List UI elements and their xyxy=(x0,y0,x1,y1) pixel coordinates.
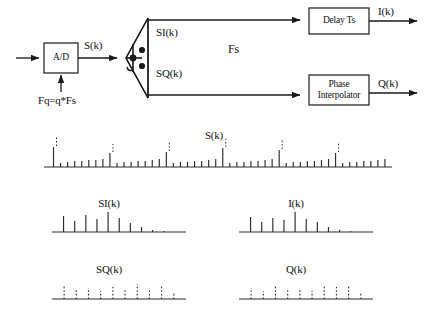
plot-qk-title: Q(k) xyxy=(286,264,306,275)
plot-sqk-title: SQ(k) xyxy=(96,264,122,275)
waveform-layer xyxy=(0,0,428,311)
plot-ik xyxy=(239,212,373,232)
diagram-canvas: A/D Fq=q*Fs S(k) SI(k) SQ(k) Fs Delay Ts… xyxy=(0,0,428,311)
plot-qk xyxy=(239,285,373,299)
plot-ik-title: I(k) xyxy=(288,198,304,209)
plot-sqk xyxy=(52,284,186,299)
plot-sik-title: SI(k) xyxy=(98,198,120,209)
plot-sk xyxy=(44,137,392,167)
plot-sik xyxy=(52,212,186,232)
plot-sk-title: S(k) xyxy=(205,130,223,141)
